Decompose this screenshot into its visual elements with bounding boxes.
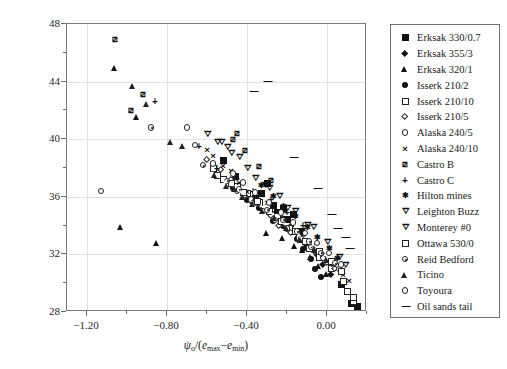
data-point [294, 228, 300, 234]
legend-marker-glyph [402, 224, 409, 231]
data-point [259, 208, 265, 214]
x-tick-label: −1.20 [61, 320, 111, 331]
data-point [274, 208, 281, 215]
legend-marker-glyph [401, 113, 409, 121]
data-point [98, 188, 105, 195]
data-point [280, 223, 286, 229]
legend-item[interactable]: Hilton mines [391, 188, 499, 204]
y-tick-minor [63, 109, 66, 110]
legend-item[interactable]: Erksak 330/0.7 [391, 30, 499, 46]
y-tick-label: 32 [30, 248, 60, 259]
data-point [288, 219, 295, 226]
data-point [210, 165, 217, 172]
data-point [304, 222, 311, 229]
data-point [224, 144, 231, 151]
data-point [271, 215, 277, 221]
data-point [348, 300, 355, 307]
legend-item[interactable]: Ottawa 530/0 [391, 235, 499, 251]
data-point [228, 167, 235, 174]
legend-item[interactable]: Isserk 210/10 [391, 93, 499, 109]
open-diamond-icon [400, 112, 410, 122]
legend-item[interactable]: Isserk 210/5 [391, 109, 499, 125]
data-point [264, 207, 270, 213]
data-point [270, 202, 277, 209]
data-point [203, 156, 211, 164]
y-axis-title: Friction angle, φ′tc [14, 311, 30, 369]
data-point [129, 83, 135, 89]
data-point [340, 278, 347, 285]
legend-item[interactable]: Toyoura [391, 283, 499, 299]
legend-marker-glyph [402, 177, 409, 184]
data-point [328, 258, 335, 265]
data-point [350, 298, 357, 305]
data-point [310, 242, 317, 249]
data-point [236, 154, 243, 161]
data-point [334, 255, 341, 262]
data-point [152, 98, 159, 105]
data-point [230, 185, 236, 191]
filled-square-icon [400, 33, 410, 43]
data-point [290, 154, 297, 161]
filled-triangle-icon [400, 64, 410, 74]
data-point [224, 178, 230, 184]
legend-item[interactable]: Castro C [391, 172, 499, 188]
data-point [328, 265, 335, 272]
legend-item[interactable]: Reid Bedford [391, 251, 499, 267]
legend-item-label: Castro C [417, 175, 454, 186]
data-point [262, 182, 269, 189]
legend-item[interactable]: Castro B [391, 156, 499, 172]
data-point [249, 201, 255, 207]
data-point [264, 199, 271, 206]
legend-item[interactable]: Alaska 240/10 [391, 141, 499, 157]
data-point [240, 189, 247, 196]
data-point [332, 260, 338, 266]
data-point [231, 186, 237, 192]
data-point [279, 215, 287, 223]
legend-item[interactable]: Erksak 320/1 [391, 62, 499, 78]
data-point [314, 185, 321, 192]
legend-item-label: Isserk 210/2 [417, 80, 469, 91]
data-point [256, 199, 263, 206]
legend-item[interactable]: Alaska 240/5 [391, 125, 499, 141]
legend-item[interactable]: Erksak 355/3 [391, 46, 499, 62]
open-triangle-icon [400, 270, 410, 280]
legend-item-label: Monterey #0 [417, 222, 471, 233]
x-tick [166, 311, 167, 316]
data-point [112, 36, 119, 43]
filled-diamond-icon [400, 49, 410, 59]
data-point [267, 212, 275, 220]
legend-item[interactable]: Isserk 210/2 [391, 77, 499, 93]
data-point [153, 240, 159, 246]
data-point [328, 211, 335, 218]
data-point [287, 223, 295, 231]
data-point [280, 217, 286, 223]
legend-item[interactable]: Ticino [391, 267, 499, 283]
data-point [256, 205, 262, 211]
gridline-horizontal [67, 82, 365, 83]
legend-marker-glyph [402, 192, 409, 199]
data-point [264, 180, 271, 187]
legend-item[interactable]: Oil sands tail [391, 299, 499, 315]
data-point [303, 242, 311, 250]
data-point [338, 268, 345, 275]
legend-marker-glyph [401, 66, 407, 72]
data-point [280, 205, 287, 212]
data-point [300, 246, 306, 252]
data-point [295, 233, 303, 241]
y-tick-minor [63, 225, 66, 226]
data-point [254, 198, 261, 205]
data-point [270, 218, 276, 224]
data-point [111, 65, 117, 71]
legend-item-label: Reid Bedford [417, 254, 474, 265]
legend-item[interactable]: Monterey #0 [391, 220, 499, 236]
y-tick [61, 253, 66, 254]
legend-marker-glyph [402, 208, 409, 215]
legend-item[interactable]: Leighton Buzz [391, 204, 499, 220]
data-point [210, 160, 217, 167]
gridline-vertical [87, 24, 88, 310]
open-circle-icon [400, 128, 410, 138]
data-point [140, 91, 147, 98]
legend-marker-glyph [402, 82, 408, 88]
data-point [297, 236, 305, 244]
data-point [294, 236, 300, 242]
